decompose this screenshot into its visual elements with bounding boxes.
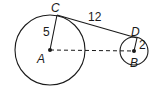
label-cd-length: 12 <box>88 10 102 24</box>
label-bd-length: 2 <box>139 38 146 52</box>
radius-bd <box>134 38 137 51</box>
label-ac-length: 5 <box>43 25 50 39</box>
label-a: A <box>36 52 45 66</box>
point-b-dot <box>132 49 136 53</box>
radius-ac <box>50 15 57 50</box>
label-d: D <box>131 25 140 39</box>
label-b: B <box>130 56 138 70</box>
segment-ab-dashed <box>50 50 134 51</box>
point-a-dot <box>48 48 52 52</box>
label-c: C <box>51 1 60 15</box>
tangent-circles-diagram: C A D B 5 2 12 <box>0 0 155 89</box>
